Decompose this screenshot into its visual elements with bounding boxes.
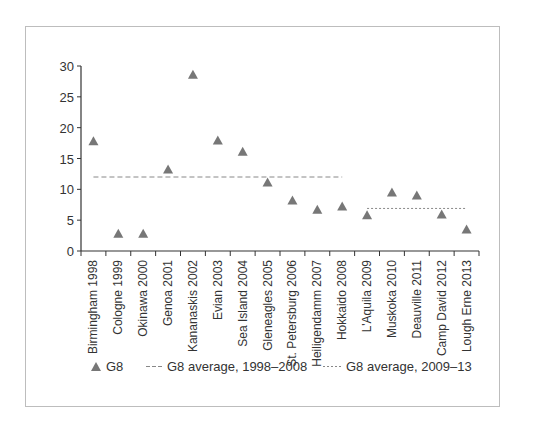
data-point-g8: [138, 229, 148, 238]
legend: G8 G8 average, 1998–2008 G8 average, 200…: [91, 359, 472, 374]
x-tick-label: Sea Island 2004: [236, 260, 250, 347]
data-point-g8: [163, 165, 173, 174]
data-point-g8: [238, 147, 248, 156]
legend-label-g8: G8: [106, 359, 123, 374]
reference-lines: [93, 177, 466, 208]
data-point-g8: [462, 224, 472, 233]
data-point-g8: [213, 136, 223, 145]
x-tick-label: Okinawa 2000: [136, 260, 150, 337]
y-tick-label: 30: [60, 59, 74, 74]
y-tick-label: 0: [67, 244, 74, 259]
data-point-g8: [387, 187, 397, 196]
chart: 051015202530 Birmingham 1998Cologne 1999…: [0, 0, 540, 431]
x-tick-label: Cologne 1999: [111, 260, 125, 335]
x-tick-label: St. Petersburg 2006: [285, 260, 299, 367]
y-tick-label: 20: [60, 121, 74, 136]
y-tick-label: 15: [60, 152, 74, 167]
x-tick-label: Genoa 2001: [161, 260, 175, 326]
x-tick-label: Muskoka 2010: [385, 260, 399, 338]
x-tick-label: Camp David 2012: [435, 260, 449, 356]
x-axis-ticks: Birmingham 1998Cologne 1999Okinawa 2000G…: [81, 251, 479, 367]
data-point-g8: [412, 191, 422, 200]
data-point-g8: [362, 210, 372, 219]
data-point-g8: [312, 205, 322, 214]
data-point-g8: [263, 178, 273, 187]
data-point-g8: [437, 210, 447, 219]
x-tick-label: L'Aquila 2009: [360, 260, 374, 333]
legend-label-average-1998-2008: G8 average, 1998–2008: [167, 359, 307, 374]
data-points: [88, 70, 471, 238]
data-point-g8: [188, 70, 198, 79]
data-point-g8: [337, 202, 347, 211]
y-tick-label: 5: [67, 213, 74, 228]
legend-marker-g8: [91, 362, 101, 371]
x-tick-label: Heiligendamm 2007: [310, 260, 324, 367]
x-tick-label: Kananaskis 2002: [186, 260, 200, 352]
y-tick-label: 10: [60, 182, 74, 197]
data-point-g8: [287, 195, 297, 204]
legend-label-average-2009-13: G8 average, 2009–13: [346, 359, 472, 374]
x-tick-label: Lough Erne 2013: [460, 260, 474, 352]
x-tick-label: Hokkaido 2008: [335, 260, 349, 340]
axes: [81, 66, 479, 251]
x-tick-label: Evian 2003: [211, 260, 225, 320]
data-point-g8: [88, 136, 98, 145]
x-tick-label: Gleneagles 2005: [261, 260, 275, 351]
y-axis-ticks: 051015202530: [60, 59, 81, 259]
x-tick-label: Deauville 2011: [410, 260, 424, 339]
data-point-g8: [113, 229, 123, 238]
y-tick-label: 25: [60, 90, 74, 105]
x-tick-label: Birmingham 1998: [86, 260, 100, 354]
